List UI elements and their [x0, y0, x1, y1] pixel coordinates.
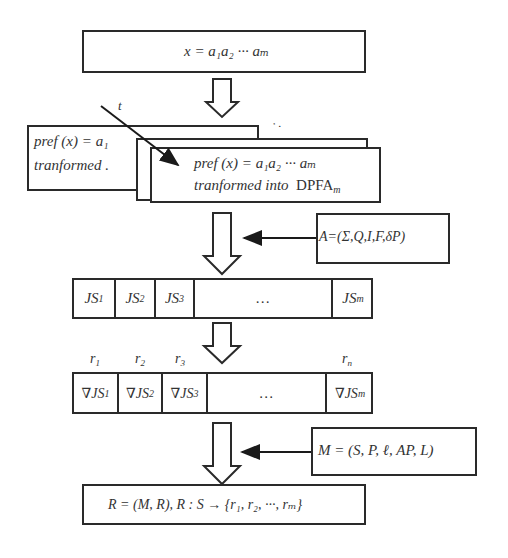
r-label-sub: 2 — [140, 358, 145, 368]
r-label-sub: 3 — [180, 358, 185, 368]
js-cell-sub: 3 — [179, 293, 184, 304]
r-label: r3 — [175, 351, 185, 368]
prefix-first-line1: pref (x) = a₁ — [34, 133, 108, 150]
gradient-cell-sub: 1 — [105, 388, 110, 399]
js-cell-text: JS — [165, 290, 179, 307]
r-label: r1 — [90, 351, 100, 368]
gradient-row: ∇JS1 ∇JS2 ∇JS3 … ∇JSm — [72, 372, 373, 414]
js-cell-sub: 2 — [140, 293, 145, 304]
js-cell-text: JS — [342, 290, 356, 307]
dpfa-label: DPFAm — [292, 177, 340, 193]
down-arrow-icon — [206, 79, 238, 117]
js-cell-text: JS — [84, 290, 98, 307]
ellipsis-text: … — [256, 290, 269, 307]
gradient-cell: ∇JS2 — [119, 374, 163, 412]
js-cell: JS1 — [74, 280, 116, 317]
gradient-cell-text: ∇JS — [335, 385, 358, 402]
input-string-formula: x = a₁a₂ ··· aₘ — [184, 42, 269, 60]
gradient-cell-sub: m — [358, 388, 365, 399]
prefix-last-line2-text: tranformed into — [194, 177, 289, 193]
result-box: R = (M, R), R : S → {r₁, r₂, ···, rₘ} — [82, 484, 366, 525]
gradient-cell: ∇JS3 — [163, 374, 208, 412]
gradient-cell: ∇JSm — [327, 374, 373, 412]
js-cell-ellipsis: … — [195, 280, 333, 317]
down-arrow-icon — [204, 323, 240, 363]
gradient-cell-sub: 2 — [149, 388, 154, 399]
gradient-cell-sub: 3 — [194, 388, 199, 399]
js-cell-sub: m — [356, 293, 363, 304]
down-arrow-icon — [204, 423, 240, 484]
prefix-box-last: pref (x) = a₁a₂ ··· aₘ tranformed into D… — [150, 147, 381, 203]
r-label-sub: n — [347, 358, 352, 368]
prefix-last-line2: tranformed into DPFAm — [194, 177, 341, 195]
js-cell-sub: 1 — [99, 293, 104, 304]
model-formula: M = (S, P, ℓ, AP, L) — [318, 442, 434, 459]
gradient-cell-text: ∇JS — [82, 385, 105, 402]
automaton-box: A=(Σ,Q,I,F,δP) — [316, 213, 450, 264]
down-arrow-icon — [204, 213, 240, 274]
dpfa-subscript: m — [333, 184, 340, 195]
gradient-cell-ellipsis: … — [208, 374, 327, 412]
r-label: rn — [342, 351, 352, 368]
js-row: JS1 JS2 JS3 … JSm — [72, 278, 373, 319]
model-box: M = (S, P, ℓ, AP, L) — [311, 427, 477, 476]
result-formula: R = (M, R), R : S → {r₁, r₂, ···, rₘ} — [108, 496, 302, 513]
js-cell-text: JS — [125, 290, 139, 307]
gradient-cell: ∇JS1 — [74, 374, 119, 412]
t-label: t — [118, 98, 122, 114]
r-label-sub: 1 — [95, 358, 100, 368]
input-string-box: x = a₁a₂ ··· aₘ — [82, 30, 366, 73]
gradient-cell-text: ∇JS — [171, 385, 194, 402]
prefix-first-line2: tranformed . — [34, 157, 109, 174]
r-label: r2 — [135, 351, 145, 368]
gradient-cell-text: ∇JS — [126, 385, 149, 402]
js-cell: JS2 — [116, 280, 156, 317]
dpfa-text: DPFA — [296, 177, 333, 193]
ellipsis-text: … — [260, 385, 273, 402]
js-cell: JSm — [333, 280, 373, 317]
prefix-last-line1: pref (x) = a₁a₂ ··· aₘ — [194, 154, 317, 172]
automaton-formula: A=(Σ,Q,I,F,δP) — [319, 229, 405, 245]
js-cell: JS3 — [156, 280, 195, 317]
